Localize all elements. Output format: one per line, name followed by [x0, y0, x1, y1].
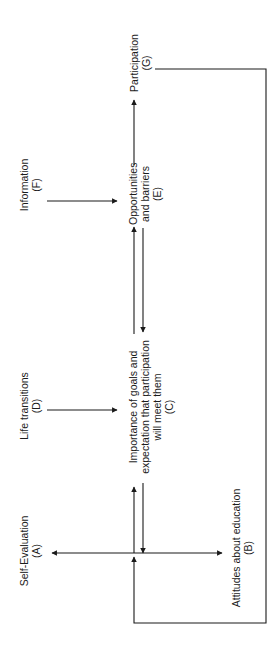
node-c-line3: will meet them [151, 332, 163, 482]
node-f-information: Information (F) [18, 140, 42, 230]
node-a-self-evaluation: Self-Evaluation (A) [18, 506, 42, 596]
node-g-participation: Participation (G) [128, 26, 152, 100]
node-c-importance-of-goals: Importance of goals and expectation that… [127, 332, 175, 482]
node-f-id: (F) [30, 140, 42, 230]
node-c-line2: expectation that participation [139, 332, 151, 482]
node-f-label: Information [18, 140, 30, 230]
node-b-label: Attitudes about education [230, 478, 242, 618]
node-d-life-transitions: Life transitions (D) [18, 364, 42, 448]
node-b-attitudes-about-education: Attitudes about education (B) [230, 478, 254, 618]
node-e-line1: Opportunities [127, 163, 139, 225]
node-c-id: (C) [163, 332, 175, 482]
node-e-line2: and barriers [139, 163, 151, 225]
node-c-line1: Importance of goals and [127, 332, 139, 482]
node-d-id: (D) [30, 364, 42, 448]
node-a-label: Self-Evaluation [18, 506, 30, 596]
node-e-opportunities: Opportunities and barriers (E) [127, 163, 163, 225]
node-d-label: Life transitions [18, 364, 30, 448]
node-b-id: (B) [242, 478, 254, 618]
node-a-id: (A) [30, 506, 42, 596]
node-g-id: (G) [140, 26, 152, 100]
node-e-id: (E) [151, 163, 163, 225]
node-g-label: Participation [128, 26, 140, 100]
